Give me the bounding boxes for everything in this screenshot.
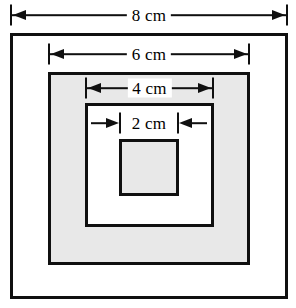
dimension-line-4cm: 4 cm [85,77,214,99]
dimension-label-2cm: 2 cm [127,114,171,133]
arrow-head-left-6cm [51,49,64,59]
dimension-label-8cm: 8 cm [127,6,171,25]
geometry-figure: 8 cm 6 cm 4 cm 2 cm [0,0,296,308]
arrow-head-right-4cm [198,83,211,93]
arrow-head-right-6cm [234,49,247,59]
dimension-label-6cm: 6 cm [127,45,171,64]
dimension-tick-left-2cm [119,113,121,134]
arrow-head-right-8cm [272,10,285,20]
arrow-head-left-2cm [106,118,119,128]
dimension-line-2cm: 2 cm [89,112,209,134]
dimension-label-4cm: 4 cm [127,79,171,98]
square-2cm-shaded [119,139,179,196]
dimension-line-6cm: 6 cm [48,43,250,65]
arrow-head-left-8cm [13,10,26,20]
arrow-head-right-2cm [179,118,192,128]
dimension-tick-right-2cm [177,113,179,134]
dimension-line-8cm: 8 cm [10,4,288,26]
arrow-head-left-4cm [88,83,101,93]
